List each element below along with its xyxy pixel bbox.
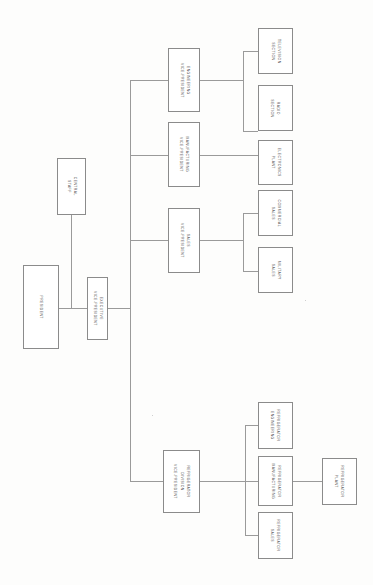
edge-engineering-radio xyxy=(243,131,258,132)
node-radio-section-label: RADIO SECTION xyxy=(269,99,282,117)
edge-engineering-splitter xyxy=(243,51,244,131)
edge-sales-military xyxy=(243,271,258,272)
edge-president-executive xyxy=(59,308,88,309)
edge-manufacturing-electronics xyxy=(200,155,258,156)
node-engineering-vp[interactable]: ENGINEERING VICE-PRESIDENT xyxy=(168,48,200,112)
main-trunk-line xyxy=(130,80,131,481)
node-television-section[interactable]: TELEVISION SECTION xyxy=(258,28,293,74)
node-military-sales[interactable]: MILITARY SALES xyxy=(258,247,293,293)
org-chart: PRESIDENT CENTRAL STAFF EXECUTIVE VICE-P… xyxy=(0,0,373,585)
scan-speck xyxy=(305,300,306,301)
node-central-staff-label: CENTRAL STAFF xyxy=(65,177,78,196)
edge-trunk-refrigerator xyxy=(130,481,163,482)
edge-sales-commercial xyxy=(243,213,258,214)
node-electronics-plant[interactable]: ELECTRONICS PLANT xyxy=(258,140,293,185)
edge-engineering-stem xyxy=(200,80,243,81)
node-central-staff[interactable]: CENTRAL STAFF xyxy=(57,158,86,215)
node-commercial-sales-label: COMMERCIAL SALES xyxy=(269,199,282,226)
edge-trunk-manufacturing xyxy=(130,155,168,156)
node-commercial-sales[interactable]: COMMERCIAL SALES xyxy=(258,190,293,236)
edge-trunk-engineering xyxy=(130,80,168,81)
edge-central-staff-stem xyxy=(71,215,72,308)
edge-refrigerator-sales xyxy=(245,535,258,536)
node-engineering-vp-label: ENGINEERING VICE-PRESIDENT xyxy=(178,63,191,98)
node-refrigerator-manufacturing[interactable]: REFRIGERATOR MANUFACTURING xyxy=(258,456,293,506)
edge-sales-stem xyxy=(200,240,243,241)
node-refrigerator-plant-label: REFRIGERATOR PLANT xyxy=(333,465,346,497)
node-executive-vp-label: EXECUTIVE VICE-PRESIDENT xyxy=(91,291,104,326)
node-refrigerator-sales[interactable]: REFRIGERATOR SALES xyxy=(258,512,293,559)
edge-refrigerator-stem xyxy=(200,481,245,482)
scan-speck xyxy=(152,415,153,416)
edge-executive-trunk xyxy=(108,308,131,309)
edge-engineering-television xyxy=(243,51,258,52)
edge-refrig-mfg-plant xyxy=(293,481,322,482)
edge-refrigerator-engineering xyxy=(245,425,258,426)
node-refrigerator-engineering[interactable]: REFRIGERATOR ENGINEERING xyxy=(258,402,293,449)
node-refrigerator-vp[interactable]: REFRIGERATOR DIVISION VICE-PRESIDENT xyxy=(163,450,200,513)
edge-refrigerator-manufacturing xyxy=(245,481,258,482)
node-president-label: PRESIDENT xyxy=(38,295,44,318)
node-refrigerator-engineering-label: REFRIGERATOR ENGINEERING xyxy=(269,409,282,441)
node-refrigerator-vp-label: REFRIGERATOR DIVISION VICE-PRESIDENT xyxy=(172,464,191,499)
node-radio-section[interactable]: RADIO SECTION xyxy=(258,85,293,131)
node-television-section-label: TELEVISION SECTION xyxy=(269,39,282,63)
node-executive-vp[interactable]: EXECUTIVE VICE-PRESIDENT xyxy=(87,277,108,340)
node-refrigerator-sales-label: REFRIGERATOR SALES xyxy=(269,519,282,551)
node-refrigerator-manufacturing-label: REFRIGERATOR MANUFACTURING xyxy=(269,463,282,498)
node-electronics-plant-label: ELECTRONICS PLANT xyxy=(269,148,282,177)
edge-trunk-sales xyxy=(130,240,168,241)
node-sales-vp[interactable]: SALES VICE-PRESIDENT xyxy=(168,208,200,273)
edge-refrigerator-splitter xyxy=(245,425,246,535)
node-manufacturing-vp-label: MANUFACTURING VICE-PRESIDENT xyxy=(178,137,191,172)
node-refrigerator-plant[interactable]: REFRIGERATOR PLANT xyxy=(322,458,357,505)
node-military-sales-label: MILITARY SALES xyxy=(269,261,282,280)
edge-sales-splitter xyxy=(243,213,244,271)
node-president[interactable]: PRESIDENT xyxy=(23,265,59,349)
node-sales-vp-label: SALES VICE-PRESIDENT xyxy=(178,223,191,258)
node-manufacturing-vp[interactable]: MANUFACTURING VICE-PRESIDENT xyxy=(168,122,200,187)
